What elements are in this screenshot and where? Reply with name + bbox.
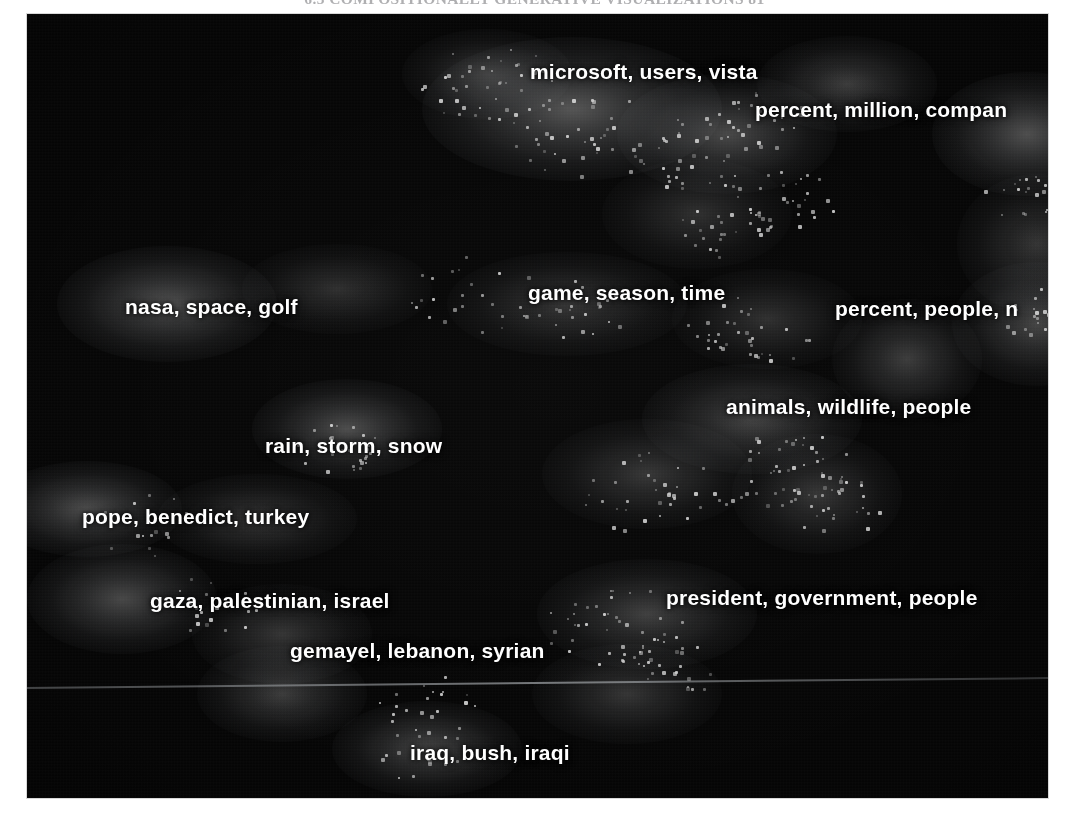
topic-label[interactable]: percent, million, compan: [755, 98, 1007, 122]
document-point: [667, 493, 671, 497]
document-point: [833, 514, 835, 516]
document-point: [244, 626, 247, 629]
document-point: [606, 128, 609, 131]
document-point: [694, 244, 697, 247]
document-point: [757, 212, 761, 216]
document-point: [822, 509, 825, 512]
document-point: [626, 500, 629, 503]
document-point: [1003, 189, 1005, 191]
document-point: [190, 578, 193, 581]
document-point: [692, 154, 696, 158]
document-point: [470, 283, 473, 286]
topic-label[interactable]: microsoft, users, vista: [530, 60, 758, 84]
topic-label[interactable]: nasa, space, golf: [125, 295, 298, 319]
document-point: [792, 466, 796, 470]
document-point: [686, 517, 689, 520]
document-point: [758, 215, 761, 218]
document-point: [733, 322, 736, 325]
document-point: [818, 178, 821, 181]
document-point: [735, 231, 737, 233]
document-point: [782, 488, 785, 491]
document-point: [396, 734, 399, 737]
document-point: [731, 499, 735, 503]
document-point: [458, 727, 461, 730]
document-point: [608, 652, 611, 655]
topic-label[interactable]: animals, wildlife, people: [726, 395, 971, 419]
document-point: [426, 697, 429, 700]
document-point: [699, 229, 702, 232]
document-point: [662, 671, 666, 675]
density-blob: [617, 74, 837, 194]
document-point: [573, 613, 575, 615]
topic-label[interactable]: pope, benedict, turkey: [82, 505, 309, 529]
document-point: [571, 639, 574, 642]
document-point: [1006, 325, 1010, 329]
document-point: [634, 155, 637, 158]
document-point: [840, 488, 844, 492]
document-point: [142, 535, 144, 537]
document-point: [498, 272, 501, 275]
document-point: [714, 340, 717, 343]
document-point: [643, 519, 647, 523]
document-point: [359, 467, 362, 470]
document-point: [643, 665, 645, 667]
document-point: [675, 176, 678, 179]
topic-label[interactable]: game, season, time: [528, 281, 725, 305]
document-point: [622, 660, 625, 663]
document-point: [691, 220, 695, 224]
document-point: [759, 145, 763, 149]
document-point: [676, 486, 678, 488]
document-point: [603, 613, 606, 616]
topic-label[interactable]: gemayel, lebanon, syrian: [290, 639, 545, 663]
document-point: [523, 315, 525, 317]
document-point: [392, 713, 395, 716]
document-point: [555, 324, 557, 326]
document-point: [786, 201, 789, 204]
density-blob: [957, 174, 1048, 314]
document-point: [667, 175, 670, 178]
document-point: [800, 178, 802, 180]
document-point: [444, 676, 447, 679]
document-point: [1035, 176, 1037, 178]
document-point: [505, 82, 507, 84]
document-point: [715, 249, 718, 252]
document-point: [668, 180, 671, 183]
document-point: [633, 656, 636, 659]
document-point: [675, 636, 678, 639]
document-point: [195, 614, 199, 618]
document-point: [304, 462, 307, 465]
document-point: [718, 113, 721, 116]
document-point: [816, 460, 819, 463]
document-point: [838, 492, 841, 495]
document-point: [1024, 328, 1027, 331]
document-point: [653, 479, 656, 482]
topic-label[interactable]: gaza, palestinian, israel: [150, 589, 390, 613]
density-blob: [532, 644, 722, 744]
document-point: [398, 777, 400, 779]
document-point: [612, 526, 616, 530]
document-point: [553, 630, 557, 634]
topic-label[interactable]: president, government, people: [666, 586, 978, 610]
document-point: [150, 534, 153, 537]
document-point: [336, 425, 338, 427]
document-point: [749, 353, 752, 356]
document-point: [360, 461, 364, 465]
document-point: [415, 306, 418, 309]
document-point: [1027, 187, 1030, 190]
document-point: [1022, 212, 1025, 215]
document-point: [732, 185, 735, 188]
document-point: [658, 147, 660, 149]
document-point: [432, 298, 435, 301]
topic-label[interactable]: iraq, bush, iraqi: [410, 741, 570, 765]
document-point: [860, 481, 863, 484]
topic-label[interactable]: percent, people, n: [835, 297, 1018, 321]
document-point: [154, 530, 158, 534]
document-point: [748, 339, 752, 343]
topic-label[interactable]: rain, storm, snow: [265, 434, 442, 458]
document-point: [537, 143, 540, 146]
document-point: [750, 308, 752, 310]
document-point: [687, 686, 689, 688]
document-point: [623, 529, 627, 533]
document-point: [465, 85, 468, 88]
document-point: [839, 480, 843, 484]
